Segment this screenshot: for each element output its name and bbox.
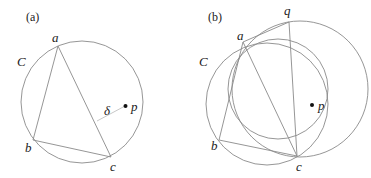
point-p (310, 103, 314, 107)
distance-segment (97, 106, 125, 121)
vertex-b-label: b (211, 138, 218, 153)
panel-b: (b) C a q b c p (199, 3, 368, 174)
circle-through-a-q-c (232, 21, 368, 157)
circle-c-label: C (199, 54, 208, 69)
circle-c (21, 41, 143, 163)
vertex-q-label: q (284, 3, 291, 18)
circle-c-label: C (17, 54, 26, 69)
circle-through-a-c (228, 39, 328, 139)
vertex-a-label: a (237, 28, 244, 43)
point-p-label: p (317, 98, 325, 113)
panel-b-label: (b) (208, 10, 222, 24)
circle-c (206, 43, 328, 165)
vertex-b-label: b (25, 140, 32, 155)
vertex-c-label: c (296, 159, 302, 174)
vertex-a-label: a (52, 30, 59, 45)
delta-label: δ (104, 103, 111, 118)
figure: (a) C a b c δ p (b) C a q b c p (0, 0, 371, 178)
triangle-abc (33, 46, 111, 157)
point-p-label: p (130, 99, 138, 114)
panel-a: (a) C a b c δ p (17, 10, 143, 174)
panel-a-label: (a) (26, 10, 39, 24)
vertex-c-label: c (110, 159, 116, 174)
point-p (124, 104, 128, 108)
